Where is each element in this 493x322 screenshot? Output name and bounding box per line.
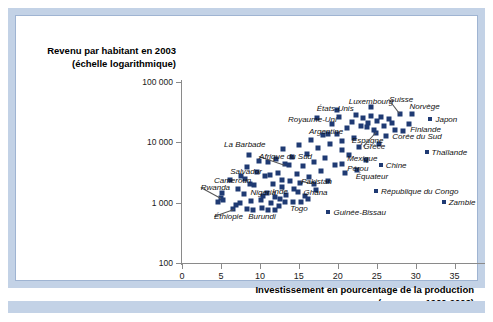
data-point [260,205,265,210]
point-label: Grèce [363,142,385,151]
data-point-labeled [364,124,369,129]
x-tick-mark [182,263,183,269]
data-point [332,163,337,168]
data-point [379,115,384,120]
data-point-labeled [296,189,301,194]
data-point [390,120,395,125]
y-axis-title-line1: Revenu par habitant en 2003 [40,44,176,57]
point-label: Équateur [356,172,388,181]
y-tick-mark [176,203,182,204]
point-label: Norvège [409,102,439,111]
data-point-labeled [339,147,344,152]
data-point [268,201,273,206]
point-label: République du Congo [381,187,458,196]
point-label: Rwanda [201,183,230,192]
data-point [282,200,287,205]
data-point [296,143,301,148]
point-label: Salvador [230,167,262,176]
data-point [279,177,284,182]
data-point [368,114,373,119]
data-point [277,204,282,209]
data-point [318,169,323,174]
y-tick-mark [176,142,182,143]
data-point-labeled [268,173,273,178]
data-point [306,197,311,202]
data-point [294,171,299,176]
x-tick-mark [338,263,339,269]
point-label: Mexique [347,154,377,163]
data-point-labeled [339,161,344,166]
x-tick-label: 0 [179,271,184,281]
point-label: Corée du Sud [392,131,441,140]
x-tick-label: 35 [450,271,460,281]
footer-accent-bar [8,301,485,313]
data-point [288,179,293,184]
data-point [337,115,342,120]
point-label: Afrique du Sud [259,151,312,160]
legend-marker [326,210,330,214]
data-point [237,201,242,206]
x-tick-mark [221,263,222,269]
legend-marker [428,117,432,121]
x-tick-mark [455,263,456,269]
data-point [236,186,241,191]
y-tick-mark [176,82,182,83]
y-axis-title: Revenu par habitant en 2003 (échelle log… [40,44,176,70]
y-tick-label: 1 000 [152,198,173,208]
x-axis-title-line1: Investissement en pourcentage de la prod… [196,283,474,296]
point-label: Ghana [304,187,328,196]
x-tick-label: 10 [255,271,265,281]
legend-marker [442,200,446,204]
data-point [271,181,276,186]
point-label: Thaïlande [432,148,468,157]
data-point [300,164,305,169]
x-tick-label: 20 [333,271,343,281]
legend-marker [425,150,429,154]
point-label: Togo [290,203,308,212]
legend-marker [374,189,378,193]
y-axis-title-line2: (échelle logarithmique) [40,57,176,70]
data-point [316,145,321,150]
point-label: Zambie [449,198,476,207]
legend-marker [379,163,383,167]
x-tick-label: 30 [411,271,421,281]
x-tick-label: 15 [294,271,304,281]
point-label: Pakistan [301,177,332,186]
data-point [381,124,386,129]
x-tick-label: 5 [218,271,223,281]
data-point [354,113,359,118]
data-point-labeled [246,152,251,157]
point-label: Royaume-Uni [288,115,337,124]
data-point-labeled [409,111,414,116]
y-tick-label: 10 000 [147,137,173,147]
x-tick-mark [299,263,300,269]
data-point [356,144,361,149]
y-tick-label: 100 [159,258,173,268]
x-tick-mark [260,263,261,269]
data-point [241,192,246,197]
point-label: La Barbade [224,139,265,148]
scatter-plot-area: 1001 00010 000100 000 05101520253035 La … [182,82,478,263]
point-label: Argentine [309,126,343,135]
data-point [345,126,350,131]
chart-panel: Revenu par habitant en 2003 (échelle log… [15,15,478,281]
y-tick-label: 100 000 [142,77,173,87]
data-point [349,119,354,124]
x-tick-mark [416,263,417,269]
point-label: Japon [435,115,457,124]
point-label: Luxembourg [349,97,393,106]
data-point [340,139,345,144]
point-label: Chine [386,161,407,170]
point-label: Éthiopie [214,211,243,220]
data-point [323,155,328,160]
point-label: Guinée-Bissau [333,208,385,217]
point-label: Inde [272,187,288,196]
decorative-frame: Revenu par habitant en 2003 (échelle log… [8,8,485,288]
data-point [249,199,254,204]
data-point [359,123,364,128]
x-tick-mark [377,263,378,269]
data-point [309,137,314,142]
data-point [328,141,333,146]
point-label: Burundi [248,211,276,220]
x-tick-label: 25 [372,271,382,281]
